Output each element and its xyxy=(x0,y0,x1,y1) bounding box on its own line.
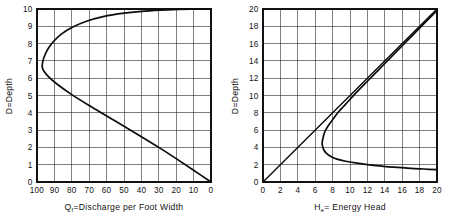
x-tick-label: 40 xyxy=(137,186,147,195)
x-tick-label: 2 xyxy=(278,186,283,195)
x-axis-tick-labels: 02468101214161820 xyxy=(261,186,442,195)
y-tick-label: 6 xyxy=(28,74,33,83)
grid-lines xyxy=(37,9,211,182)
y-tick-label: 9 xyxy=(28,22,33,31)
x-tick-label: 6 xyxy=(313,186,318,195)
x-tick-label: 60 xyxy=(102,186,112,195)
discharge-depth-plot: 1009080706050403020100 012345678910 Qf=D… xyxy=(0,0,226,224)
x-tick-label: 8 xyxy=(330,186,335,195)
x-tick-label: 14 xyxy=(380,186,390,195)
x-tick-label: 18 xyxy=(415,186,425,195)
y-tick-label: 3 xyxy=(28,126,33,135)
y-tick-label: 4 xyxy=(254,143,259,152)
x-tick-label: 16 xyxy=(397,186,407,195)
chart-discharge-depth: 1009080706050403020100 012345678910 Qf=D… xyxy=(0,0,226,224)
x-axis-tick-labels: 1009080706050403020100 xyxy=(30,186,214,195)
y-tick-label: 12 xyxy=(249,74,259,83)
y-tick-label: 0 xyxy=(254,178,259,187)
x-tick-label: 0 xyxy=(209,186,214,195)
x-tick-label: 50 xyxy=(119,186,129,195)
x-axis-title: Qf=Discharge per Foot Width xyxy=(65,202,184,213)
y-tick-label: 2 xyxy=(254,161,259,170)
y-tick-label: 4 xyxy=(28,109,33,118)
figure-container: 1009080706050403020100 012345678910 Qf=D… xyxy=(0,0,452,224)
y-tick-label: 14 xyxy=(249,57,259,66)
y-tick-label: 6 xyxy=(254,126,259,135)
x-tick-label: 0 xyxy=(261,186,266,195)
x-tick-label: 20 xyxy=(171,186,181,195)
x-tick-label: 12 xyxy=(363,186,373,195)
x-tick-label: 100 xyxy=(30,186,45,195)
y-axis-tick-labels: 02468101214161820 xyxy=(249,5,259,187)
y-tick-label: 8 xyxy=(254,109,259,118)
y-axis-title: D=Depth xyxy=(230,78,240,114)
y-axis-tick-labels: 012345678910 xyxy=(23,5,33,187)
specific-energy-plot: 02468101214161820 02468101214161820 He= … xyxy=(226,0,452,224)
y-tick-label: 2 xyxy=(28,143,33,152)
x-axis-title: He= Energy Head xyxy=(314,202,386,213)
x-tick-label: 10 xyxy=(345,186,355,195)
y-tick-label: 5 xyxy=(28,92,33,101)
x-tick-label: 70 xyxy=(84,186,94,195)
y-tick-label: 10 xyxy=(23,5,33,14)
y-tick-label: 16 xyxy=(249,40,259,49)
x-tick-label: 90 xyxy=(50,186,60,195)
y-tick-label: 20 xyxy=(249,5,259,14)
y-tick-label: 7 xyxy=(28,57,33,66)
y-tick-label: 8 xyxy=(28,40,33,49)
y-tick-label: 1 xyxy=(28,161,33,170)
x-tick-label: 80 xyxy=(67,186,77,195)
chart-specific-energy: 02468101214161820 02468101214161820 He= … xyxy=(226,0,452,224)
x-tick-label: 4 xyxy=(295,186,300,195)
y-tick-label: 0 xyxy=(28,178,33,187)
y-tick-label: 18 xyxy=(249,22,259,31)
y-axis-title: D=Depth xyxy=(4,78,14,114)
x-tick-label: 30 xyxy=(154,186,164,195)
x-tick-label: 10 xyxy=(189,186,199,195)
y-tick-label: 10 xyxy=(249,92,259,101)
x-tick-label: 20 xyxy=(432,186,442,195)
